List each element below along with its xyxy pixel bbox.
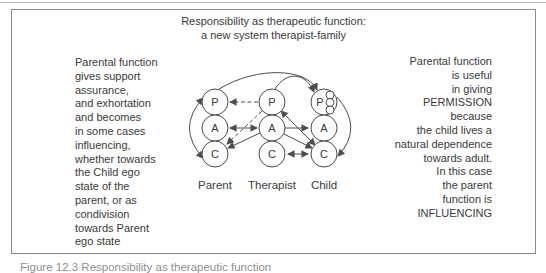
child-p-inner-circle-3	[326, 106, 334, 114]
arc-therapistP-childP-top	[275, 76, 314, 92]
therapist-column-label: Therapist	[248, 179, 297, 191]
parent-c-label: C	[211, 148, 219, 160]
arc-childP-childC-right	[337, 97, 351, 156]
parent-p-label: P	[211, 96, 218, 108]
parent-stack: P A C Parent	[198, 89, 233, 191]
child-p-inner-circle-1	[326, 91, 334, 99]
figure-caption-clipped: Figure 12.3 Responsibility as therapeuti…	[20, 261, 540, 273]
arrow-therapistA-parentC	[228, 133, 260, 148]
child-c-label: C	[320, 148, 328, 160]
figure-frame: Responsibility as therapeutic function: …	[11, 9, 536, 254]
child-column-label: Child	[311, 179, 337, 191]
child-a-label: A	[320, 122, 328, 134]
figure-title: Responsibility as therapeutic function: …	[12, 14, 535, 42]
ego-states-diagram: P A C Parent P A C Therapist P A C Chil	[172, 58, 402, 203]
arc-parentP-parentC-left	[190, 98, 204, 158]
page-top-rule	[0, 2, 546, 3]
arc-parentP-childP-top	[219, 73, 317, 90]
child-p-label: P	[316, 96, 323, 108]
therapist-a-label: A	[268, 122, 276, 134]
therapist-stack: P A C Therapist	[248, 89, 297, 191]
arrow-therapistA-childC	[284, 134, 312, 148]
child-stack: P A C Child	[311, 89, 337, 191]
therapist-p-label: P	[268, 96, 275, 108]
therapist-c-label: C	[268, 148, 276, 160]
child-p-inner-circle-2	[326, 99, 334, 107]
parent-a-label: A	[211, 122, 219, 134]
parent-column-label: Parent	[198, 179, 233, 191]
